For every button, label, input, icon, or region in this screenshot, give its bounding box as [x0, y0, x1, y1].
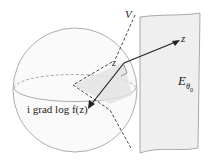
label-grad: i grad log f(z)	[27, 104, 88, 115]
label-z-outer: z	[181, 33, 185, 44]
label-z-inner: z	[112, 58, 116, 68]
label-e-theta0: Eθ0	[178, 74, 193, 92]
label-v: V	[125, 9, 132, 20]
